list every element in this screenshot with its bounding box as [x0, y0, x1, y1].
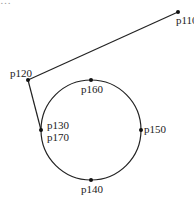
label-p150: p150 — [144, 123, 167, 135]
point-p150 — [139, 128, 143, 132]
point-p160 — [89, 78, 93, 82]
label-p130: p130 — [47, 119, 70, 131]
label-p140: p140 — [81, 183, 104, 195]
label-p170: p170 — [47, 131, 70, 143]
label-p160: p160 — [81, 83, 104, 95]
segment-p110-p120 — [28, 12, 178, 80]
segment-p120-p130 — [28, 80, 41, 130]
geometry-diagram: p110 p120 p160 p130 p170 p150 p140 — [0, 0, 194, 198]
label-p120: p120 — [10, 67, 33, 79]
point-p130 — [39, 128, 43, 132]
label-p110: p110 — [176, 14, 194, 26]
point-p140 — [89, 178, 93, 182]
